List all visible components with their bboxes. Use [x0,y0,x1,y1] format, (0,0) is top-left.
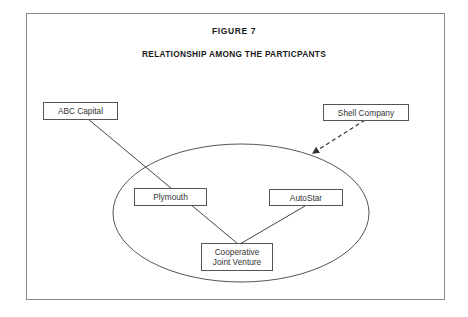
node-plymouth: Plymouth [134,188,207,206]
edge-autostar-to-cjv [240,206,305,244]
node-cooperative-joint-venture: Cooperative Joint Venture [201,243,273,271]
node-cjv-label-line1: Cooperative [215,247,260,257]
node-abc-capital: ABC Capital [43,102,118,120]
node-shell-company: Shell Company [323,104,409,121]
node-shell-company-label: Shell Company [338,108,394,118]
node-abc-capital-label: ABC Capital [58,106,103,116]
edge-shell-dashed-arrow [313,120,365,153]
edge-abc-to-cjv [88,119,238,244]
node-cjv-label-line2: Joint Venture [213,257,261,267]
node-plymouth-label: Plymouth [153,192,188,202]
node-autostar-label: AutoStar [290,193,322,203]
node-autostar: AutoStar [269,189,343,206]
